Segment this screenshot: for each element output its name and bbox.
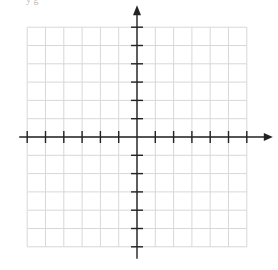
coordinate-plane bbox=[0, 0, 278, 270]
axes bbox=[19, 5, 273, 259]
x-axis-arrow-icon bbox=[264, 133, 273, 141]
y-axis-arrow-icon bbox=[133, 5, 141, 15]
